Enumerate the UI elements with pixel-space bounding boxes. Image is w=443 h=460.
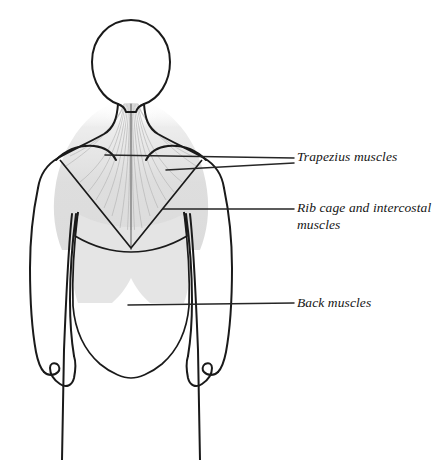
right-arm-outer (218, 188, 232, 372)
label-trapezius-muscles: Trapezius muscles (297, 148, 397, 165)
leader-back-muscles (128, 303, 294, 305)
left-arm-outer (30, 188, 44, 372)
torso-right-side (190, 214, 200, 460)
anatomy-diagram-canvas: Trapezius muscles Rib cage and intercost… (0, 0, 443, 460)
torso-left-side (62, 214, 72, 460)
left-hand (44, 356, 76, 386)
right-hand (187, 356, 219, 386)
label-back-muscles: Back muscles (297, 294, 371, 311)
label-rib-cage-and-intercostal-muscles: Rib cage and intercostal muscles (297, 199, 431, 233)
